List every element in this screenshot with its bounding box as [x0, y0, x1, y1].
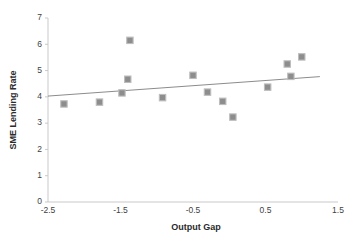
x-tick-label: 0.5 [260, 205, 272, 215]
data-point-marker [288, 73, 294, 79]
y-axis: 01234567 [37, 12, 48, 206]
data-point-marker [96, 99, 102, 105]
y-tick-label: 5 [37, 65, 42, 75]
y-axis-title: SME Lending Rate [8, 70, 18, 149]
data-point-marker [125, 76, 131, 82]
x-axis: -2.5-1.5-0.50.51.5 [41, 202, 345, 215]
trend-line [48, 77, 320, 96]
data-points [61, 37, 305, 120]
trend-line-segment [48, 77, 320, 96]
y-tick-label: 7 [37, 12, 42, 22]
x-tick-label: 1.5 [332, 205, 344, 215]
y-tick-label: 1 [37, 170, 42, 180]
data-point-marker [230, 114, 236, 120]
y-tick-label: 3 [37, 117, 42, 127]
y-tick-label: 4 [37, 91, 42, 101]
data-point-marker [284, 61, 290, 67]
data-point-marker [299, 54, 305, 60]
data-point-marker [264, 84, 270, 90]
data-point-marker [220, 98, 226, 104]
data-point-marker [127, 37, 133, 43]
data-point-marker [119, 90, 125, 96]
plot-area: 01234567 -2.5-1.5-0.50.51.5 Output Gap S… [0, 0, 352, 246]
y-tick-label: 6 [37, 39, 42, 49]
data-point-marker [61, 101, 67, 107]
data-point-marker [204, 89, 210, 95]
y-tick-label: 2 [37, 144, 42, 154]
x-axis-title: Output Gap [171, 222, 221, 232]
data-point-marker [190, 72, 196, 78]
x-tick-label: -1.5 [113, 205, 128, 215]
x-tick-label: -0.5 [186, 205, 201, 215]
data-point-marker [159, 94, 165, 100]
x-tick-label: -2.5 [41, 205, 56, 215]
scatter-chart: 01234567 -2.5-1.5-0.50.51.5 Output Gap S… [0, 0, 352, 246]
